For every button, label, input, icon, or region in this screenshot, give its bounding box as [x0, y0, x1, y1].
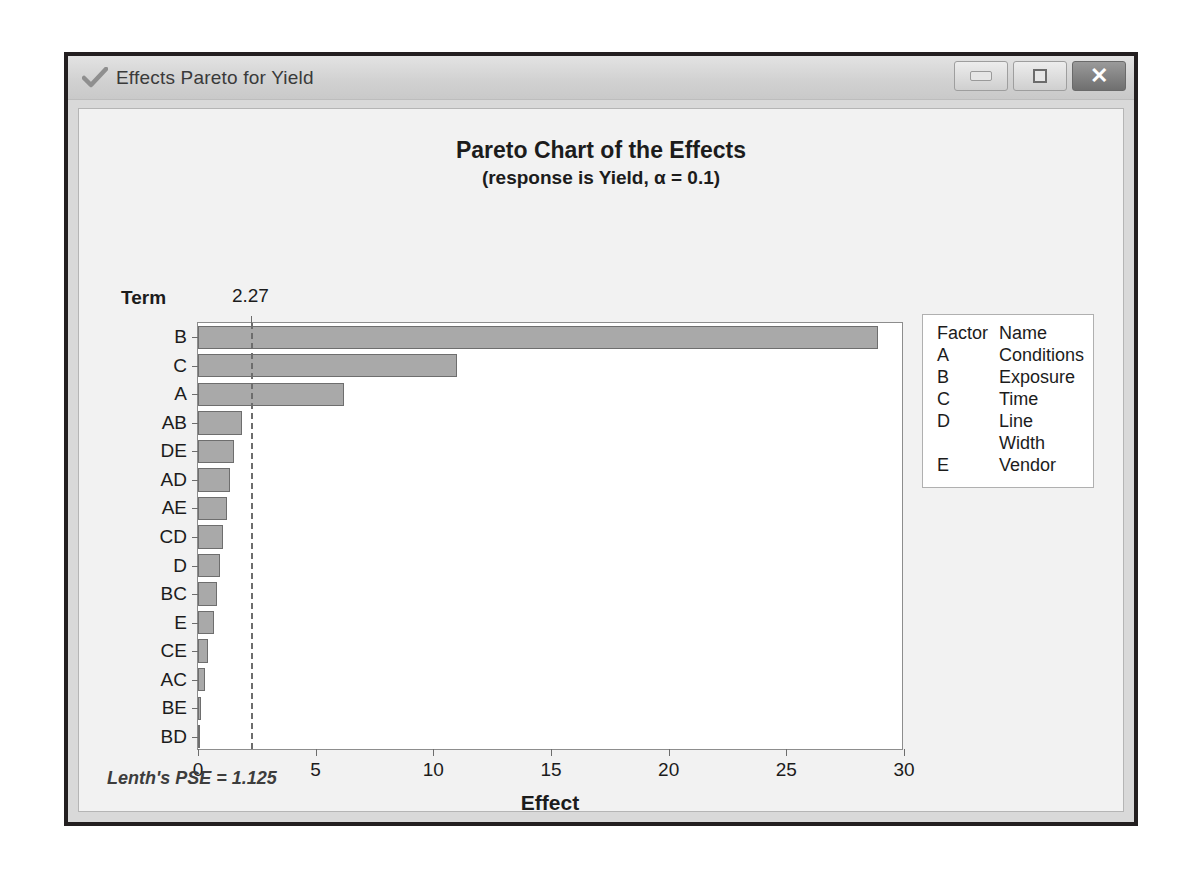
bar-be [198, 697, 201, 720]
legend-name: Conditions [999, 345, 1084, 367]
y-tick [192, 594, 198, 595]
legend-factor: D [937, 411, 999, 455]
window-title: Effects Pareto for Yield [116, 67, 314, 89]
reference-line [251, 323, 253, 749]
x-tick-label: 10 [423, 759, 444, 781]
legend-header-row: Factor Name [937, 323, 1081, 345]
bar-bd [198, 725, 200, 748]
y-tick [192, 480, 198, 481]
x-tick-label: 30 [893, 759, 914, 781]
maximize-icon [1033, 69, 1047, 83]
legend-factor: A [937, 345, 999, 367]
x-tick [551, 749, 552, 756]
legend-factor: B [937, 367, 999, 389]
y-tick-label-ae: AE [162, 497, 187, 519]
minimize-icon [970, 71, 992, 81]
legend-header-name: Name [999, 323, 1081, 345]
x-tick [433, 749, 434, 756]
y-tick [192, 566, 198, 567]
chart-subtitle: (response is Yield, α = 0.1) [79, 167, 1123, 189]
y-tick-label-ab: AB [162, 412, 187, 434]
bar-e [198, 611, 214, 634]
close-icon: ✕ [1090, 65, 1108, 87]
legend-row: AConditions [937, 345, 1081, 367]
bar-de [198, 440, 234, 463]
x-axis-title: Effect [198, 791, 902, 815]
y-tick [192, 423, 198, 424]
x-tick-label: 25 [776, 759, 797, 781]
legend-row: CTime [937, 389, 1081, 411]
chart-title: Pareto Chart of the Effects [79, 137, 1123, 164]
chart-window: Effects Pareto for Yield ✕ Pareto Chart … [64, 52, 1138, 826]
chart-content-panel: Pareto Chart of the Effects (response is… [78, 108, 1124, 812]
legend-name: Time [999, 389, 1081, 411]
screenshot-root: Effects Pareto for Yield ✕ Pareto Chart … [0, 0, 1204, 893]
maximize-button[interactable] [1013, 61, 1067, 91]
window-controls: ✕ [954, 61, 1126, 91]
window-titlebar[interactable]: Effects Pareto for Yield ✕ [68, 56, 1134, 100]
factor-legend: Factor Name AConditionsBExposureCTimeDLi… [922, 314, 1094, 488]
x-tick-label: 15 [540, 759, 561, 781]
legend-name: Exposure [999, 367, 1081, 389]
y-tick-label-ce: CE [161, 640, 187, 662]
lenths-pse-note: Lenth's PSE = 1.125 [107, 768, 277, 789]
y-tick [192, 451, 198, 452]
legend-row: BExposure [937, 367, 1081, 389]
legend-factor: E [937, 455, 999, 477]
legend-name: Line Width [999, 411, 1081, 455]
reference-line-label: 2.27 [232, 285, 269, 307]
legend-row: EVendor [937, 455, 1081, 477]
y-tick [192, 537, 198, 538]
bar-ac [198, 668, 205, 691]
reference-line-tick [251, 316, 252, 323]
y-tick-label-bd: BD [161, 726, 187, 748]
y-tick-label-e: E [174, 612, 187, 634]
bar-ce [198, 639, 208, 662]
x-tick [316, 749, 317, 756]
y-tick-label-ad: AD [161, 469, 187, 491]
close-button[interactable]: ✕ [1072, 61, 1126, 91]
bar-ad [198, 468, 230, 491]
y-tick [192, 680, 198, 681]
x-tick [669, 749, 670, 756]
bar-c [198, 354, 457, 377]
pareto-plot-area: Effect BCAABDEADAECDDBCECEACBEBD05101520… [197, 322, 903, 750]
bar-cd [198, 525, 223, 548]
y-tick-label-de: DE [161, 440, 187, 462]
y-tick-label-be: BE [162, 697, 187, 719]
y-tick [192, 737, 198, 738]
bar-b [198, 326, 878, 349]
bar-d [198, 554, 220, 577]
x-tick [904, 749, 905, 756]
y-tick [192, 508, 198, 509]
bar-ae [198, 497, 227, 520]
y-tick-label-b: B [174, 326, 187, 348]
checkmark-icon [82, 67, 108, 89]
y-tick [192, 651, 198, 652]
x-tick [786, 749, 787, 756]
term-axis-header: Term [121, 287, 166, 309]
legend-name: Vendor [999, 455, 1081, 477]
x-tick-label: 20 [658, 759, 679, 781]
legend-row: DLine Width [937, 411, 1081, 455]
legend-header-factor: Factor [937, 323, 999, 345]
minimize-button[interactable] [954, 61, 1008, 91]
y-tick [192, 708, 198, 709]
y-tick-label-cd: CD [160, 526, 187, 548]
x-tick [198, 749, 199, 756]
bar-a [198, 383, 344, 406]
bar-bc [198, 582, 217, 605]
y-tick-label-ac: AC [161, 669, 187, 691]
x-tick-label: 5 [310, 759, 321, 781]
legend-factor: C [937, 389, 999, 411]
y-tick-label-d: D [173, 555, 187, 577]
y-tick [192, 366, 198, 367]
y-tick-label-a: A [174, 383, 187, 405]
y-tick [192, 337, 198, 338]
bar-ab [198, 411, 242, 434]
y-tick [192, 623, 198, 624]
y-tick-label-c: C [173, 355, 187, 377]
y-tick [192, 394, 198, 395]
y-tick-label-bc: BC [161, 583, 187, 605]
